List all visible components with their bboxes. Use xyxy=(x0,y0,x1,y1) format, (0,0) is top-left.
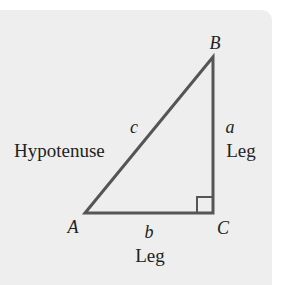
leg-a-label: Leg xyxy=(226,140,256,161)
side-b-label: b xyxy=(145,222,154,242)
side-c-label: c xyxy=(130,117,138,137)
right-angle-marker xyxy=(197,197,213,213)
vertex-a-label: A xyxy=(67,217,80,237)
leg-b-label: Leg xyxy=(135,245,165,266)
right-triangle-diagram: B A C c a b Hypotenuse Leg Leg xyxy=(0,0,286,285)
vertex-b-label: B xyxy=(210,33,221,53)
triangle xyxy=(85,57,213,213)
hypotenuse-label: Hypotenuse xyxy=(14,140,105,161)
side-a-label: a xyxy=(226,117,235,137)
vertex-c-label: C xyxy=(217,218,230,238)
